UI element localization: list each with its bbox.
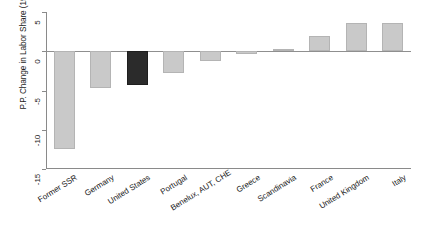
bar-portugal [163, 51, 184, 73]
bar-greece [236, 51, 257, 53]
bar-benelux-aut-che [200, 51, 221, 61]
y-tick-mark [42, 130, 46, 131]
y-tick-label: 5 [33, 11, 42, 35]
bar-germany [90, 51, 111, 88]
bar-united-kingdom [346, 23, 367, 51]
y-tick-mark [42, 12, 46, 13]
y-tick-label: -15 [33, 168, 42, 192]
y-tick-label: 0 [33, 50, 42, 74]
bar-scandinavia [273, 49, 294, 51]
bar-chart: P.P. Change in Labor Share (1995 to 2017… [0, 0, 431, 237]
y-tick-mark [42, 169, 46, 170]
bar-united-states [127, 51, 148, 85]
y-tick-mark [42, 91, 46, 92]
bar-former-ssr [54, 51, 75, 149]
y-tick-label: -10 [33, 128, 42, 152]
bar-italy [382, 23, 403, 51]
bar-france [309, 36, 330, 52]
y-tick-label: -5 [33, 89, 42, 113]
plot-area: 50-5-10-15 [46, 12, 411, 169]
y-axis-title: P.P. Change in Labor Share (1995 to 2017… [19, 0, 28, 118]
y-axis-line [46, 12, 47, 169]
